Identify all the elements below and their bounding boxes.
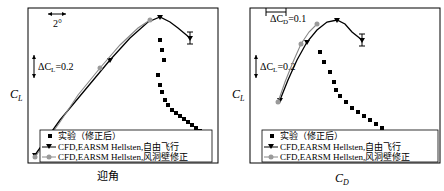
experiment-data-point [332,80,336,84]
chart-lift-vs-alpha: 2° ΔCL=0.2 实验（修正后） CFD,EARSM Hellsten,自由… [0,0,222,191]
experiment-data-point [158,38,162,42]
legend-entry-cfd-wall-corrected: CFD,EARSM Hellsten,风洞壁修正 [58,151,188,162]
circle-marker-icon [299,42,304,47]
legend-entry-experiment: 实验（修正后） [58,130,121,141]
x-scale-annotation: ΔCD=0.1 [266,8,306,26]
circle-marker-icon [98,66,103,71]
experiment-data-point [350,106,354,110]
experiment-data-point [166,103,170,107]
y-axis-label: CL [232,87,245,103]
experiment-data-point [170,108,174,112]
y-scale-label: ΔCL=0.2 [260,61,296,74]
experiment-data-point [362,114,366,118]
circle-marker-icon [269,155,274,160]
y-axis-label: CL [10,87,23,103]
y-scale-annotation: ΔCL=0.2 [32,55,74,78]
plot-series [276,18,415,148]
square-marker-icon [270,134,274,138]
experiment-data-point [194,126,198,130]
circle-marker-icon [148,18,153,23]
x-scale-label: 2° [53,18,62,29]
triangle-down-marker-icon [304,40,310,45]
legend-entry-cfd-wall-corrected: CFD,EARSM Hellsten,风洞壁修正 [280,151,410,162]
x-axis-label: 迎角 [97,170,119,182]
circle-marker-icon [276,100,281,105]
experiment-data-point [163,98,167,102]
x-scale-label: ΔCD=0.1 [270,13,306,26]
experiment-data-point [174,111,178,115]
experiment-data-point [344,100,348,104]
circle-marker-icon [33,155,38,160]
chart-lift-vs-drag-canvas: ΔCD=0.1 ΔCL=0.2 实验（修正后） CFD,EARSM Hellst… [222,0,444,191]
y-scale-annotation: ΔCL=0.2 [254,55,296,78]
circle-marker-icon [47,155,52,160]
experiment-data-point [334,88,338,92]
legend-entry-cfd-free-flight: CFD,EARSM Hellsten,自由飞行 [280,141,401,152]
experiment-data-point [162,58,166,62]
legend: 实验（修正后） CFD,EARSM Hellsten,自由飞行 CFD,EARS… [262,130,438,162]
experiment-data-point [328,70,332,74]
legend-entry-experiment: 实验（修正后） [280,130,343,141]
chart-lift-vs-alpha-canvas: 2° ΔCL=0.2 实验（修正后） CFD,EARSM Hellsten,自由… [0,0,222,191]
series-line-free-flight [280,20,362,100]
x-axis-label: CD [335,171,349,187]
y-scale-label: ΔCL=0.2 [38,61,74,74]
experiment-data-point [160,48,164,52]
legend-entry-cfd-free-flight: CFD,EARSM Hellsten,自由飞行 [58,141,179,152]
square-marker-icon [48,134,52,138]
experiment-data-point [322,60,326,64]
experiment-data-point [178,114,182,118]
experiment-data-point [356,110,360,114]
experiment-data-point [156,73,160,77]
experiment-data-point [158,83,162,87]
experiment-data-point [160,90,164,94]
legend: 实验（修正后） CFD,EARSM Hellsten,自由飞行 CFD,EARS… [40,130,212,162]
experiment-data-point [318,50,322,54]
experiment-data-point [368,118,372,122]
experiment-data-point [186,120,190,124]
chart-lift-vs-drag: ΔCD=0.1 ΔCL=0.2 实验（修正后） CFD,EARSM Hellst… [222,0,444,191]
experiment-data-point [182,117,186,121]
experiment-data-point [338,94,342,98]
circle-marker-icon [315,22,320,27]
experiment-data-point [380,126,384,130]
experiment-data-point [374,122,378,126]
experiment-data-point [190,123,194,127]
x-scale-annotation: 2° [48,12,66,29]
